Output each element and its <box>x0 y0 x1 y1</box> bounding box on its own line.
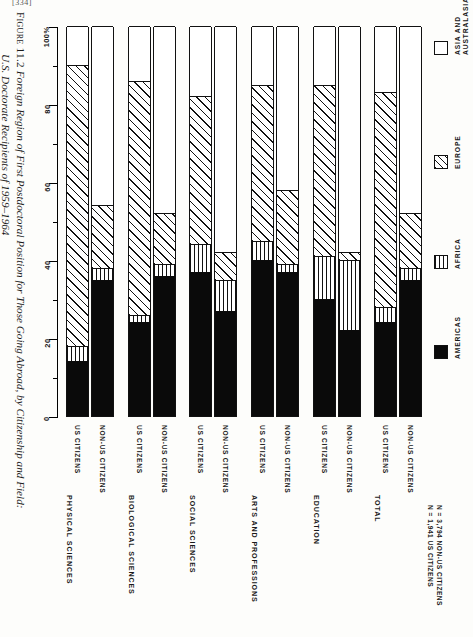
bar-segment-africa <box>190 244 211 271</box>
bar-label: US CITIZENS <box>321 425 328 474</box>
bar-label: NON-US CITIZENS <box>284 425 291 493</box>
bar-segment-africa <box>215 280 236 311</box>
bar-segment-africa <box>154 264 175 276</box>
bar-segment-africa <box>314 256 335 299</box>
group-label: TOTAL <box>373 495 381 523</box>
bar-segment-europe <box>314 85 335 257</box>
group-label: PHYSICAL SCIENCES <box>65 495 73 584</box>
bar-group: US CITIZENSNON-US CITIZENSARTS AND PROFE… <box>243 27 305 417</box>
stacked-bar[interactable] <box>91 27 114 417</box>
bar-segment-asia <box>314 26 335 85</box>
bar-group: US CITIZENSNON-US CITIZENSSOCIAL SCIENCE… <box>181 27 243 417</box>
bar-segment-americas <box>339 330 360 416</box>
bar-segment-africa <box>67 346 88 362</box>
bar-segment-americas <box>67 361 88 416</box>
chart-legend: AMERICASAFRICAEUROPEASIA ANDAUSTRALASIA <box>428 27 473 457</box>
legend-label: AMERICAS <box>454 316 461 359</box>
bar-label: NON-US CITIZENS <box>161 425 168 493</box>
bar-segment-americas <box>252 260 273 416</box>
bar-segment-americas <box>92 280 113 417</box>
stacked-bar[interactable] <box>338 27 361 417</box>
stacked-bar[interactable] <box>276 27 299 417</box>
bar-segment-europe <box>277 190 298 264</box>
bar-segment-europe <box>190 96 211 244</box>
bar-segment-americas <box>375 322 396 416</box>
stacked-bar[interactable] <box>399 27 422 417</box>
bar-segment-europe <box>129 81 150 315</box>
axis-tick-label: 40 <box>43 261 52 270</box>
legend-label: AFRICA <box>454 238 461 269</box>
stacked-bar[interactable] <box>128 27 151 417</box>
bar-segment-africa <box>277 264 298 272</box>
stacked-bar[interactable] <box>374 27 397 417</box>
bar-segment-africa <box>339 260 360 330</box>
bar-segment-americas <box>277 272 298 416</box>
bar-segment-americas <box>400 280 421 417</box>
legend-swatch-icon <box>434 255 448 269</box>
legend-swatch-icon <box>434 155 448 169</box>
bar-label: NON-US CITIZENS <box>346 425 353 493</box>
stacked-bar[interactable] <box>153 27 176 417</box>
bar-group: US CITIZENSNON-US CITIZENSPHYSICAL SCIEN… <box>58 27 120 417</box>
bar-segment-africa <box>375 307 396 323</box>
stacked-bar[interactable] <box>313 27 336 417</box>
bar-label: NON-US CITIZENS <box>407 425 414 493</box>
bar-segment-asia <box>129 26 150 81</box>
bar-label: NON-US CITIZENS <box>99 425 106 493</box>
figure-label: Figure 11.2 <box>15 12 27 68</box>
bar-segment-americas <box>154 276 175 416</box>
group-label: SOCIAL SCIENCES <box>188 495 196 573</box>
legend-swatch-icon <box>434 41 448 55</box>
bar-segment-asia <box>154 26 175 213</box>
bar-segment-americas <box>190 272 211 416</box>
caption-line-2: U.S. Doctorate Recipients of 1959–1964 <box>0 12 13 627</box>
plot-region: US CITIZENSNON-US CITIZENSPHYSICAL SCIEN… <box>58 27 428 417</box>
bar-group: US CITIZENSNON-US CITIZENSEDUCATION <box>305 27 367 417</box>
bar-segment-europe <box>67 65 88 346</box>
bar-segment-europe <box>339 252 360 260</box>
legend-label: ASIA ANDAUSTRALASIA <box>454 0 470 55</box>
bar-group: US CITIZENSNON-US CITIZENSBIOLOGICAL SCI… <box>120 27 182 417</box>
bar-segment-asia <box>277 26 298 190</box>
bar-label: US CITIZENS <box>382 425 389 474</box>
bar-label: US CITIZENS <box>74 425 81 474</box>
value-axis: 020406080100% <box>30 27 58 417</box>
chart-area: 020406080100% US CITIZENSNON-US CITIZENS… <box>30 8 428 628</box>
group-label: BIOLOGICAL SCIENCES <box>127 495 135 595</box>
caption-line-1: Foreign Region of First Postdoctoral Pos… <box>15 71 27 509</box>
bar-segment-americas <box>314 299 335 416</box>
legend-swatch-icon <box>434 345 448 359</box>
bar-segment-europe <box>92 205 113 267</box>
bar-segment-asia <box>67 26 88 65</box>
bar-label: US CITIZENS <box>197 425 204 474</box>
bar-segment-asia <box>400 26 421 213</box>
stacked-bar[interactable] <box>251 27 274 417</box>
bar-segment-asia <box>375 26 396 92</box>
bar-segment-africa <box>92 268 113 280</box>
axis-tick-label: 0 <box>43 417 52 422</box>
group-label: EDUCATION <box>312 495 320 545</box>
note-line-2: N = 3,794 NON-US CITIZENS <box>436 505 443 606</box>
stacked-bar[interactable] <box>214 27 237 417</box>
bar-segment-asia <box>339 26 360 252</box>
stacked-bar[interactable] <box>66 27 89 417</box>
axis-tick-label: 20 <box>43 339 52 348</box>
axis-tick-label: 60 <box>43 183 52 192</box>
bar-segment-asia <box>215 26 236 252</box>
axis-tick-label: 80 <box>43 105 52 114</box>
bar-group: US CITIZENSNON-US CITIZENSTOTAL <box>366 27 428 417</box>
axis-tick-label: 100% <box>43 27 52 48</box>
figure-caption: Figure 11.2 Foreign Region of First Post… <box>0 0 34 637</box>
bar-segment-africa <box>129 315 150 323</box>
bar-segment-asia <box>92 26 113 205</box>
bar-segment-africa <box>400 268 421 280</box>
bar-segment-europe <box>400 213 421 268</box>
legend-label: EUROPE <box>454 135 461 169</box>
note-line-1: N = 1,941 US CITIZENS <box>427 505 434 587</box>
bar-label: US CITIZENS <box>259 425 266 474</box>
bar-segment-asia <box>190 26 211 96</box>
bar-segment-europe <box>252 85 273 241</box>
stacked-bar[interactable] <box>189 27 212 417</box>
bar-segment-europe <box>375 92 396 307</box>
bar-segment-americas <box>215 311 236 416</box>
